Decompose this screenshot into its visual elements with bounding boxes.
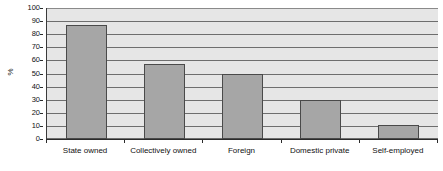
y-tick-label: 50	[32, 70, 40, 78]
x-tick-mark	[202, 140, 203, 143]
y-tick-label: 90	[32, 17, 40, 25]
bar[interactable]	[66, 25, 107, 139]
y-tick-mark	[40, 8, 43, 9]
y-tick-label: 30	[32, 96, 40, 104]
x-axis-line	[46, 139, 438, 140]
y-tick-mark	[40, 47, 43, 48]
y-tick-mark	[40, 74, 43, 75]
y-axis-ticks: 0102030405060708090100	[19, 8, 43, 139]
y-tick-label: 70	[32, 43, 40, 51]
y-tick-label: 40	[32, 83, 40, 91]
x-tick-label: State owned	[46, 146, 124, 156]
y-tick-label: 60	[32, 56, 40, 64]
y-tick-mark	[40, 113, 43, 114]
bar[interactable]	[300, 100, 341, 139]
x-tick-mark	[359, 140, 360, 143]
y-tick-label: 80	[32, 30, 40, 38]
y-tick-mark	[40, 21, 43, 22]
x-tick-mark	[46, 140, 47, 143]
y-tick-mark	[40, 126, 43, 127]
x-tick-label: Self-employed	[359, 146, 437, 156]
bar[interactable]	[144, 64, 185, 139]
x-tick-mark	[281, 140, 282, 143]
x-tick-label: Foreign	[202, 146, 280, 156]
x-tick-mark	[124, 140, 125, 143]
y-tick-mark	[40, 60, 43, 61]
y-tick-label: 100	[27, 4, 40, 12]
y-tick-mark	[40, 87, 43, 88]
bars-group	[47, 8, 438, 139]
y-tick-mark	[40, 139, 43, 140]
y-tick-label: 20	[32, 109, 40, 117]
x-tick-label: Domestic private	[281, 146, 359, 156]
bar[interactable]	[222, 74, 263, 140]
bar-chart-figure: % 0102030405060708090100 State ownedColl…	[0, 0, 443, 171]
y-tick-mark	[40, 100, 43, 101]
y-tick-label: 10	[32, 122, 40, 130]
y-tick-mark	[40, 34, 43, 35]
plot-area	[46, 8, 438, 139]
y-axis-title: %	[1, 63, 21, 81]
bar[interactable]	[378, 125, 419, 139]
x-tick-mark	[437, 140, 438, 143]
x-tick-label: Collectively owned	[124, 146, 202, 156]
